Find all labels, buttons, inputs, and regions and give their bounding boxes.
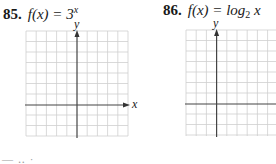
axes-86 [185, 33, 276, 137]
y-axis-label-86: y [213, 17, 218, 29]
grid-86 [186, 30, 276, 136]
x-axis-arrow-icon [123, 103, 130, 108]
y-axis-label-85: y [74, 18, 79, 30]
partial-footer-text: — ‥ · [2, 153, 35, 164]
graph-paper [0, 0, 276, 164]
axes-85 [25, 34, 126, 138]
x-axis-label-85: x [132, 98, 137, 110]
